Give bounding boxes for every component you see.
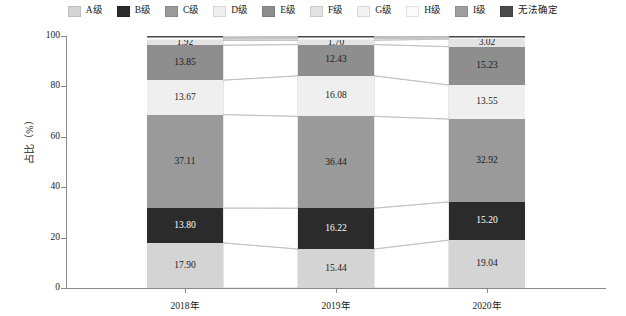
bar-segment-value-label: 3.02 <box>479 39 496 47</box>
legend-item-D级[interactable]: D级 <box>213 6 248 17</box>
bar-segment-2020年-I级[interactable] <box>449 37 525 38</box>
bar-segment-2019年-无法确定[interactable] <box>298 36 374 37</box>
connector-band-无法确定 <box>374 36 449 37</box>
bar-segment-2019年-A级[interactable]: 15.44 <box>298 249 374 288</box>
connector-band-I级 <box>374 37 449 38</box>
bar-segment-2019年-H级[interactable] <box>298 38 374 39</box>
y-axis-tick <box>61 187 66 188</box>
bar-segment-2020年-E级[interactable]: 15.23 <box>449 47 525 85</box>
connector-band-E级 <box>223 45 298 81</box>
legend-item-H级[interactable]: H级 <box>406 6 441 17</box>
bar-segment-value-label: 13.80 <box>174 221 195 231</box>
legend-item-label: C级 <box>183 6 199 16</box>
bar-segment-2018年-C级[interactable]: 37.11 <box>147 115 223 209</box>
legend-item-G级[interactable]: G级 <box>357 6 392 17</box>
bar-segment-value-label: 32.92 <box>476 156 497 166</box>
x-axis-tick <box>185 288 186 293</box>
bar-segment-2018年-B级[interactable]: 13.80 <box>147 208 223 243</box>
bar-segment-value-label: 37.11 <box>174 157 195 167</box>
bar-segment-2020年-A级[interactable]: 19.04 <box>449 240 525 288</box>
bar-segment-2019年-F级[interactable]: 1.70 <box>298 40 374 44</box>
bar-segment-value-label: 36.44 <box>325 158 346 168</box>
y-axis-tick-label: 40 <box>20 181 60 191</box>
chart-legend: A级B级C级D级E级F级G级H级I级无法确定 <box>0 0 626 22</box>
legend-swatch-icon <box>406 6 419 17</box>
bar-segment-2018年-E级[interactable]: 13.85 <box>147 45 223 80</box>
bar-segment-2020年-B级[interactable]: 15.20 <box>449 202 525 240</box>
stacked-bar-2020年[interactable]: 19.0415.2032.9213.5515.233.02 <box>449 36 525 288</box>
legend-swatch-icon <box>165 6 178 17</box>
legend-swatch-icon <box>262 6 275 17</box>
x-axis-tick <box>336 288 337 293</box>
bar-segment-2020年-G级[interactable] <box>449 38 525 39</box>
legend-swatch-icon <box>117 6 130 17</box>
bar-segment-value-label: 13.55 <box>476 97 497 107</box>
bar-segment-2018年-D级[interactable]: 13.67 <box>147 80 223 114</box>
bar-segment-2020年-无法确定[interactable] <box>449 36 525 37</box>
legend-item-C级[interactable]: C级 <box>165 6 199 17</box>
bar-segment-2018年-无法确定[interactable] <box>147 36 223 37</box>
legend-swatch-icon <box>213 6 226 17</box>
legend-item-无法确定[interactable]: 无法确定 <box>500 6 558 17</box>
bar-segment-2018年-H级[interactable] <box>147 38 223 39</box>
y-axis-tick <box>61 288 66 289</box>
legend-swatch-icon <box>455 6 468 17</box>
connector-band-D级 <box>223 76 298 117</box>
legend-item-label: H级 <box>424 6 441 16</box>
legend-item-A级[interactable]: A级 <box>68 6 103 17</box>
y-axis-tick <box>61 86 66 87</box>
legend-item-label: I级 <box>473 6 486 16</box>
bar-segment-value-label: 13.67 <box>174 93 195 103</box>
legend-item-E级[interactable]: E级 <box>262 6 296 17</box>
bar-segment-2019年-G级[interactable] <box>298 39 374 41</box>
y-axis-tick <box>61 238 66 239</box>
bar-segment-value-label: 15.23 <box>476 61 497 71</box>
bar-segment-2018年-A级[interactable]: 17.90 <box>147 243 223 288</box>
bar-segment-2020年-D级[interactable]: 13.55 <box>449 85 525 119</box>
y-axis-tick-label: 0 <box>20 282 60 292</box>
connector-band-G级 <box>223 39 298 41</box>
bar-segment-value-label: 15.20 <box>476 216 497 226</box>
connector-band-A级 <box>223 243 298 288</box>
legend-item-F级[interactable]: F级 <box>310 6 343 17</box>
x-axis-tick-label-2018年: 2018年 <box>145 298 225 312</box>
connector-band-A级 <box>374 240 449 288</box>
stacked-bar-2018年[interactable]: 17.9013.8037.1113.6713.851.92 <box>147 36 223 288</box>
connector-band-F级 <box>223 40 298 45</box>
bar-segment-2019年-D级[interactable]: 16.08 <box>298 76 374 117</box>
y-axis-tick <box>61 137 66 138</box>
bar-segment-2020年-C级[interactable]: 32.92 <box>449 119 525 202</box>
legend-swatch-icon <box>500 6 513 17</box>
x-axis-tick-label-2019年: 2019年 <box>296 298 376 312</box>
connector-band-H级 <box>223 38 298 39</box>
legend-item-label: E级 <box>280 6 296 16</box>
bar-segment-value-label: 12.43 <box>325 55 346 65</box>
bar-segment-2018年-F级[interactable]: 1.92 <box>147 40 223 45</box>
bar-segment-2018年-I级[interactable] <box>147 37 223 38</box>
connector-band-E级 <box>374 45 449 85</box>
bar-segment-2018年-G级[interactable] <box>147 39 223 40</box>
bar-segment-value-label: 1.92 <box>177 40 194 45</box>
bar-segment-value-label: 19.04 <box>476 259 497 269</box>
stacked-bar-2019年[interactable]: 15.4416.2236.4416.0812.431.70 <box>298 36 374 288</box>
connector-band-G级 <box>374 38 449 40</box>
bar-segment-2020年-F级[interactable]: 3.02 <box>449 39 525 47</box>
plot-area: 占比（%） 0204060801002018年2019年2020年17.9013… <box>66 36 606 288</box>
bar-segment-2019年-B级[interactable]: 16.22 <box>298 208 374 249</box>
legend-item-label: D级 <box>231 6 248 16</box>
legend-swatch-icon <box>357 6 370 17</box>
bar-segment-2019年-E级[interactable]: 12.43 <box>298 45 374 76</box>
bar-segment-value-label: 16.08 <box>325 91 346 101</box>
connector-band-无法确定 <box>223 36 298 37</box>
y-axis-tick-label: 60 <box>20 131 60 141</box>
bar-segment-value-label: 16.22 <box>325 224 346 234</box>
connector-band-C级 <box>223 115 298 209</box>
legend-item-B级[interactable]: B级 <box>117 6 151 17</box>
legend-swatch-icon <box>310 6 323 17</box>
y-axis-tick-label: 80 <box>20 80 60 90</box>
connector-band-C级 <box>374 116 449 208</box>
legend-item-label: A级 <box>86 6 103 16</box>
bar-segment-2019年-C级[interactable]: 36.44 <box>298 116 374 208</box>
legend-item-I级[interactable]: I级 <box>455 6 486 17</box>
y-axis-tick-label: 100 <box>20 30 60 40</box>
